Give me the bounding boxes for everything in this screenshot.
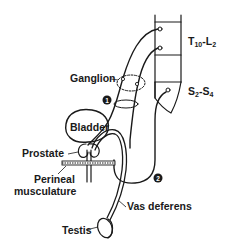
spinal-level-t10-l2-label: T10-L2 (188, 35, 216, 48)
svg-text:1: 1 (105, 97, 109, 104)
ganglion-label: Ganglion (70, 72, 116, 84)
prostate (78, 144, 99, 158)
perineal-musculature (62, 161, 115, 165)
testis (95, 216, 115, 240)
marker-1: 1 (103, 96, 112, 105)
marker-2: 2 (154, 174, 163, 183)
testis-label: Testis (62, 224, 92, 236)
perineal-label-line1: Perineal (34, 173, 75, 185)
bladder-label: Bladder (70, 121, 109, 133)
vas-deferens-label: Vas deferens (127, 200, 192, 212)
prostate-label: Prostate (22, 147, 64, 159)
reproductive-innervation-diagram: T10-L2 S2-S4 Ganglion 1 2 Bladder (0, 0, 232, 246)
vas-deferens-leader (118, 200, 126, 207)
perineal-label-line2: musculature (14, 185, 77, 197)
svg-text:2: 2 (156, 175, 160, 182)
prostate-leader (68, 152, 78, 154)
urethra (87, 150, 91, 182)
vas-deferens (92, 130, 127, 220)
spinal-level-s2-s4-label: S2-S4 (188, 85, 213, 98)
